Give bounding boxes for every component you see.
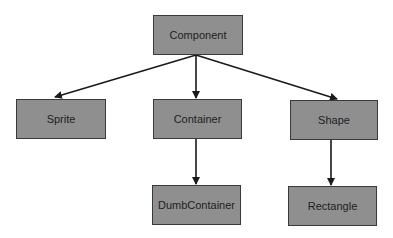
node-component: Component bbox=[153, 15, 243, 55]
edge-component-sprite bbox=[55, 55, 196, 97]
node-dumbcontainer: DumbContainer bbox=[152, 185, 241, 225]
node-label-component: Component bbox=[170, 29, 227, 41]
class-hierarchy-diagram: Component Sprite Container Shape DumbCon… bbox=[0, 0, 393, 238]
node-label-sprite: Sprite bbox=[47, 113, 76, 125]
edge-component-shape bbox=[196, 55, 337, 99]
node-label-container: Container bbox=[174, 113, 222, 125]
node-label-shape: Shape bbox=[318, 114, 350, 126]
node-container: Container bbox=[153, 99, 242, 139]
node-sprite: Sprite bbox=[16, 99, 106, 139]
node-rectangle: Rectangle bbox=[288, 186, 377, 226]
node-label-rectangle: Rectangle bbox=[308, 200, 358, 212]
node-shape: Shape bbox=[290, 100, 378, 140]
node-label-dumbcontainer: DumbContainer bbox=[158, 199, 235, 211]
